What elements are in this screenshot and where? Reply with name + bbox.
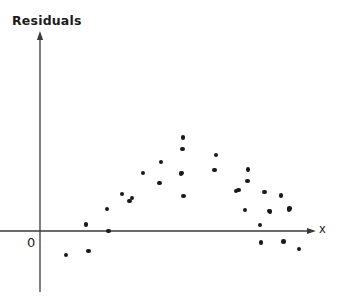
data-point	[262, 190, 266, 194]
data-point	[180, 171, 184, 175]
y-axis-arrowhead	[37, 31, 43, 40]
data-point	[243, 208, 247, 212]
data-point	[159, 160, 163, 164]
y-axis-title: Residuals	[12, 15, 82, 28]
data-point	[106, 229, 110, 233]
data-point	[212, 168, 216, 172]
data-point	[281, 239, 285, 243]
data-point	[268, 209, 272, 213]
data-point	[181, 135, 185, 139]
data-point	[279, 193, 283, 197]
data-point	[259, 240, 263, 244]
data-point	[245, 179, 249, 183]
data-point	[180, 147, 184, 151]
data-point	[157, 181, 161, 185]
data-point	[181, 194, 185, 198]
data-point	[84, 222, 88, 226]
data-point	[287, 207, 291, 211]
data-point	[86, 249, 90, 253]
data-point	[141, 171, 145, 175]
residual-plot-figure: Residuals x 0	[0, 0, 344, 306]
data-point	[120, 192, 124, 196]
data-point	[130, 196, 134, 200]
data-point	[105, 207, 109, 211]
data-point	[297, 247, 301, 251]
origin-label: 0	[27, 236, 35, 249]
x-axis-arrowhead	[307, 228, 316, 234]
axes-group	[0, 0, 344, 306]
data-point	[64, 253, 68, 257]
x-axis-title: x	[319, 224, 326, 236]
plot-surface: Residuals x 0	[0, 0, 344, 306]
data-point	[236, 188, 240, 192]
data-point	[246, 167, 250, 171]
